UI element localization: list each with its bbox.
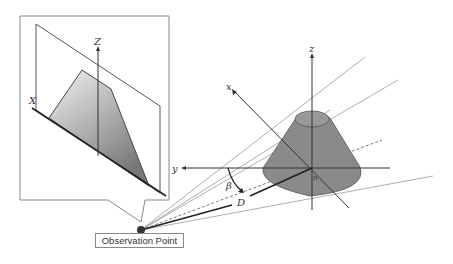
x-label: x (226, 81, 232, 92)
distance-label: D (236, 197, 245, 208)
angle-label: β (225, 180, 232, 191)
diagram-canvas: Z X z y x n D β (0, 0, 453, 264)
inset-z-label: Z (93, 36, 102, 47)
inset-x-label: X (28, 95, 37, 106)
origin-label: n (313, 174, 318, 182)
distance-line-1 (141, 205, 232, 230)
projected-shape (49, 70, 149, 186)
y-label: y (171, 163, 178, 174)
z-label: z (308, 43, 315, 54)
projection-plane: Z X (28, 24, 166, 196)
observation-point-label: Observation Point (95, 233, 184, 248)
